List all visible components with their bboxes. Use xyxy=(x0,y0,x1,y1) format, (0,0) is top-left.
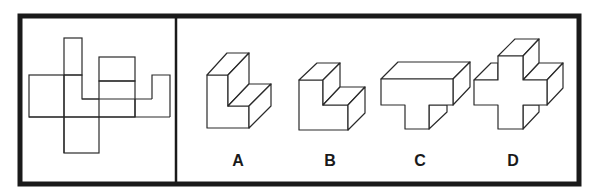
option-b-figure[interactable] xyxy=(299,63,365,130)
net-top-strip xyxy=(64,38,82,75)
net-figure xyxy=(29,38,170,153)
option-c-label[interactable]: C xyxy=(414,152,426,169)
option-a-figure[interactable] xyxy=(207,53,271,128)
net-left-face xyxy=(29,75,64,117)
option-d-figure[interactable] xyxy=(474,39,563,129)
net-center-face xyxy=(64,75,99,99)
net-right-tab xyxy=(152,75,170,117)
net-top-box xyxy=(99,57,135,81)
puzzle-canvas: A B C D xyxy=(0,0,594,194)
net-bottom-face xyxy=(64,117,99,153)
option-a-label[interactable]: A xyxy=(232,152,244,169)
option-c-figure[interactable] xyxy=(381,62,470,129)
option-b-label[interactable]: B xyxy=(324,152,336,169)
option-d-label[interactable]: D xyxy=(507,152,519,169)
